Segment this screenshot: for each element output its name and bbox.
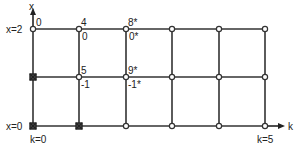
k-axis-label: k — [288, 121, 294, 132]
node-value: 0 — [36, 17, 42, 28]
column-label-right: k=5 — [257, 134, 274, 145]
node-value: 0* — [129, 31, 139, 42]
row-label-top: x=2 — [6, 24, 23, 35]
node-value: 4 — [81, 17, 87, 28]
boundary-node-icon — [30, 123, 36, 129]
node-value: 0 — [82, 31, 88, 42]
column-label-left: k=0 — [30, 134, 47, 145]
row-label-bottom: x=0 — [6, 121, 23, 132]
x-axis-label: x — [29, 1, 34, 12]
node-value: 5 — [81, 65, 87, 76]
boundary-nodes — [30, 74, 82, 129]
grid-lines — [33, 29, 265, 126]
grid-diagram: x k x=2 x=0 k=0 k=5 0 4 0 8* 0* 5 -1 9* … — [0, 0, 298, 151]
boundary-node-icon — [76, 123, 82, 129]
node-value: 9* — [128, 65, 138, 76]
node-value: -1* — [128, 79, 141, 90]
node-value: -1 — [81, 79, 90, 90]
boundary-node-icon — [30, 74, 36, 80]
node-value: 8* — [128, 17, 138, 28]
